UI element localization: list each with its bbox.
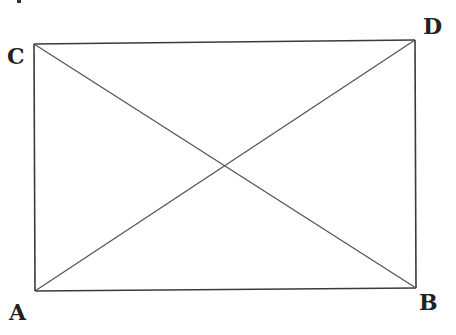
rectangle-diagram: C D A B xyxy=(0,0,456,335)
side-BA xyxy=(35,288,416,291)
vertex-label-D: D xyxy=(423,13,442,39)
vertex-label-B: B xyxy=(419,289,438,315)
diagonal-AD xyxy=(35,40,415,291)
top-cropped-glyph xyxy=(17,0,21,3)
side-CD xyxy=(34,40,415,44)
vertex-label-C: C xyxy=(7,43,25,69)
side-AC xyxy=(34,44,35,291)
vertex-label-A: A xyxy=(8,299,27,325)
side-DB xyxy=(415,40,416,288)
